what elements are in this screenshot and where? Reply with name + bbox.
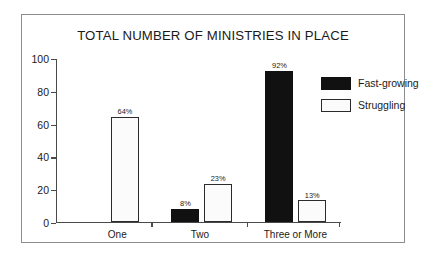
x-category-label-two: Two <box>191 229 209 240</box>
bar-value-label: 23% <box>211 174 226 183</box>
bar-value-label: 64% <box>118 107 133 116</box>
legend-entry-struggling[interactable]: Struggling <box>321 98 421 112</box>
y-tick-label: 100 <box>31 53 49 65</box>
x-category-label-one: One <box>108 229 127 240</box>
bar-value-label: 8% <box>180 199 191 208</box>
legend-label: Struggling <box>358 99 405 111</box>
legend-swatch-icon <box>321 77 351 90</box>
x-tick-separator <box>151 223 152 227</box>
x-axis-line <box>56 222 341 223</box>
x-category-label-three-or-more: Three or More <box>264 229 327 240</box>
legend-entry-fast-growing[interactable]: Fast-growing <box>321 76 421 90</box>
chart-legend: Fast-growing Struggling <box>321 76 421 120</box>
y-tick-label: 0 <box>43 217 49 229</box>
bar-fast-growing-two[interactable]: 8% <box>171 209 199 222</box>
y-axis-line <box>56 59 57 223</box>
y-tick-label: 40 <box>37 151 49 163</box>
bar-struggling-one[interactable]: 64% <box>111 117 139 222</box>
bar-fast-growing-three-or-more[interactable]: 92% <box>265 71 293 222</box>
bar-value-label: 13% <box>305 191 320 200</box>
legend-swatch-icon <box>321 99 351 112</box>
x-tick-separator <box>247 223 248 227</box>
chart-title: TOTAL NUMBER OF MINISTRIES IN PLACE <box>22 28 404 43</box>
y-tick-label: 80 <box>37 86 49 98</box>
y-tick-label: 20 <box>37 184 49 196</box>
bar-struggling-three-or-more[interactable]: 13% <box>298 200 326 221</box>
plot-area: 0 20 40 60 80 100 64% One <box>56 59 341 223</box>
y-tick-label: 60 <box>37 119 49 131</box>
x-tick-end <box>339 223 340 227</box>
bar-struggling-two[interactable]: 23% <box>204 184 232 222</box>
bar-value-label: 92% <box>272 61 287 70</box>
figure-frame: TOTAL NUMBER OF MINISTRIES IN PLACE 0 20… <box>21 14 405 243</box>
legend-label: Fast-growing <box>358 77 419 89</box>
